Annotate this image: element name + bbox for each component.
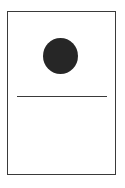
horizontal-divider <box>17 96 107 97</box>
filled-circle <box>43 38 78 74</box>
card-frame <box>7 11 116 175</box>
